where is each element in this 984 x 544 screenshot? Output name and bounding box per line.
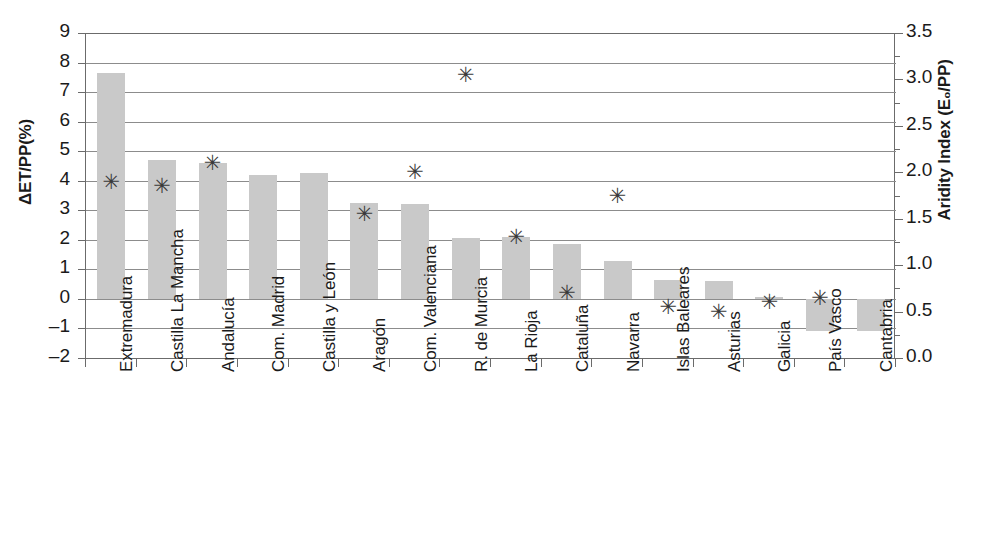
aridity-chart-figure: ΔET/PP(%) Aridity Index (E₀/PP) 98765432… <box>0 0 984 544</box>
gridline-9 <box>86 33 896 34</box>
bar <box>604 261 632 299</box>
x-axis-label: Navarra <box>624 312 644 372</box>
y-right-tick-label-1.5: 1.5 <box>906 206 960 228</box>
y-left-tick-label-0: 0 <box>24 286 70 308</box>
y-right-minor-tickmark <box>895 103 900 104</box>
x-axis-label: Andalucía <box>219 297 239 372</box>
y-left-tick-label-9: 9 <box>24 20 70 42</box>
y-right-tickmark-2.5 <box>895 126 903 127</box>
y-right-tickmark-3.0 <box>895 79 903 80</box>
y-right-minor-tickmark <box>895 242 900 243</box>
y-right-minor-tickmark <box>895 196 900 197</box>
aridity-marker: ✳ <box>203 153 223 173</box>
aridity-marker: ✳ <box>506 227 526 247</box>
y-left-tick-label-5: 5 <box>24 138 70 160</box>
y-left-tick-label-7: 7 <box>24 79 70 101</box>
x-axis-label: Castilla y León <box>320 262 340 372</box>
bar <box>199 163 227 299</box>
y-left-tick-label-1: 1 <box>24 256 70 278</box>
y-right-minor-tickmark <box>895 56 900 57</box>
aridity-marker: ✳ <box>354 204 374 224</box>
gridline-6 <box>86 122 896 123</box>
y-right-tick-label-2.0: 2.0 <box>906 159 960 181</box>
aridity-marker: ✳ <box>456 65 476 85</box>
y-right-tick-label-3.5: 3.5 <box>906 20 960 42</box>
gridline-7 <box>86 92 896 93</box>
x-axis-label: Com. Valenciana <box>421 245 441 372</box>
y-right-tick-label-2.5: 2.5 <box>906 113 960 135</box>
y-right-tick-label-0.5: 0.5 <box>906 299 960 321</box>
y-left-tick-label-8: 8 <box>24 50 70 72</box>
x-axis-label: La Rioja <box>522 310 542 372</box>
x-axis-label: R. de Murcia <box>472 277 492 372</box>
y-axis-left-title-text: ΔET/PP(%) <box>16 119 35 205</box>
y-left-tick-label--1: –1 <box>24 315 70 337</box>
y-left-tick-label-6: 6 <box>24 109 70 131</box>
aridity-marker: ✳ <box>405 162 425 182</box>
x-tickmark <box>85 358 86 367</box>
x-axis-label: Cantabria <box>877 299 897 372</box>
aridity-marker: ✳ <box>759 292 779 312</box>
aridity-marker: ✳ <box>557 283 577 303</box>
y-right-tick-label-1.0: 1.0 <box>906 252 960 274</box>
y-right-tick-label-0.0: 0.0 <box>906 345 960 367</box>
x-axis-label: Castilla La Mancha <box>168 229 188 372</box>
y-left-tick-label-2: 2 <box>24 227 70 249</box>
y-axis-right-title: Aridity Index (E₀/PP) <box>935 10 955 270</box>
aridity-marker: ✳ <box>101 172 121 192</box>
y-right-tickmark-1.5 <box>895 219 903 220</box>
y-right-tickmark-2.0 <box>895 172 903 173</box>
y-left-tick-label-4: 4 <box>24 168 70 190</box>
x-axis-label: Extremadura <box>117 276 137 372</box>
bar <box>705 281 733 299</box>
aridity-marker: ✳ <box>608 186 628 206</box>
aridity-marker: ✳ <box>152 176 172 196</box>
y-right-tickmark-1.0 <box>895 265 903 266</box>
x-axis-label: País Vasco <box>826 288 846 372</box>
x-axis-label: Aragón <box>370 318 390 372</box>
x-axis-label: Islas Baleares <box>674 267 694 372</box>
y-right-tickmark-3.5 <box>895 33 903 34</box>
y-right-tick-label-3.0: 3.0 <box>906 66 960 88</box>
x-axis-label: Cataluña <box>573 305 593 372</box>
y-left-tick-label--2: –2 <box>24 345 70 367</box>
y-left-tick-label-3: 3 <box>24 197 70 219</box>
x-axis-label: Com. Madrid <box>269 276 289 372</box>
gridline-8 <box>86 63 896 64</box>
y-right-minor-tickmark <box>895 149 900 150</box>
x-axis-label: Asturias <box>725 311 745 372</box>
x-axis-label: Galicia <box>775 321 795 372</box>
y-right-minor-tickmark <box>895 288 900 289</box>
